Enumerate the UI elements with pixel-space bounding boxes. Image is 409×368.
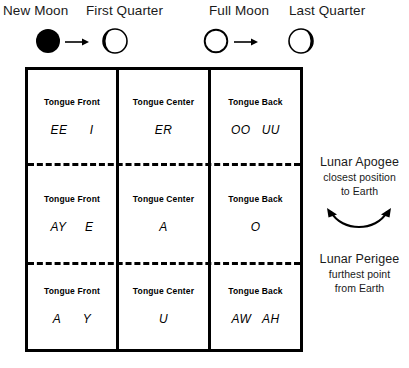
table-cell-tongue-center: Tongue Center A: [116, 164, 208, 263]
cell-title: Tongue Front: [44, 97, 100, 107]
cell-title: Tongue Back: [228, 194, 282, 204]
cell-vowels: A: [159, 220, 167, 234]
table-row: Tongue Front EE I Tongue Center ER Tongu…: [28, 70, 300, 164]
tongue-position-table: Tongue Front EE I Tongue Center ER Tongu…: [25, 67, 303, 352]
table-cell-tongue-back: Tongue Back O: [208, 164, 300, 263]
phase-label-full-moon: Full Moon: [209, 3, 269, 19]
table-cell-tongue-center: Tongue Center ER: [116, 70, 208, 164]
table-cell-tongue-front: Tongue Front A Y: [28, 263, 116, 349]
cell-title: Tongue Front: [44, 194, 100, 204]
table-cell-tongue-back: Tongue Back AW AH: [208, 263, 300, 349]
cell-title: Tongue Center: [133, 286, 194, 296]
annotation-subtitle-line1: furthest point: [310, 268, 409, 281]
right-arrow-icon: [64, 32, 90, 52]
cell-title: Tongue Back: [228, 97, 282, 107]
table-cell-tongue-back: Tongue Back OO UU: [208, 70, 300, 164]
table-grid: Tongue Front EE I Tongue Center ER Tongu…: [28, 70, 300, 349]
cell-vowels: O: [251, 220, 261, 234]
cell-title: Tongue Back: [228, 286, 282, 296]
moon-phase-icon-row: [0, 27, 409, 59]
cell-vowels: AW AH: [231, 312, 279, 326]
double-headed-curved-arrow-icon: [318, 206, 400, 240]
annotation-lunar-apogee: Lunar Apogee closest position to Earth: [310, 155, 409, 198]
annotation-subtitle-line2: from Earth: [310, 282, 409, 295]
annotation-subtitle-line1: closest position: [310, 171, 409, 184]
full-moon-icon: [203, 28, 229, 54]
cell-vowels: OO UU: [231, 123, 280, 137]
annotation-title: Lunar Perigee: [310, 252, 409, 267]
last-quarter-moon-icon: [288, 28, 314, 54]
cell-title: Tongue Center: [133, 97, 194, 107]
phase-label-first-quarter: First Quarter: [86, 3, 163, 19]
cell-title: Tongue Center: [133, 194, 194, 204]
phase-label-new-moon: New Moon: [3, 3, 68, 19]
annotation-title: Lunar Apogee: [310, 155, 409, 170]
new-moon-icon: [35, 28, 61, 54]
annotation-subtitle-line2: to Earth: [310, 185, 409, 198]
cell-vowels: A Y: [53, 312, 92, 326]
row-divider-dashed: [28, 262, 300, 265]
moon-phase-label-row: New Moon First Quarter Full Moon Last Qu…: [0, 3, 409, 23]
phase-label-last-quarter: Last Quarter: [289, 3, 365, 19]
table-cell-tongue-front: Tongue Front EE I: [28, 70, 116, 164]
cell-vowels: AY E: [51, 220, 94, 234]
table-cell-tongue-front: Tongue Front AY E: [28, 164, 116, 263]
cell-vowels: EE I: [51, 123, 94, 137]
row-divider-dashed: [28, 163, 300, 166]
cell-title: Tongue Front: [44, 286, 100, 296]
cell-vowels: ER: [155, 123, 172, 137]
table-row: Tongue Front A Y Tongue Center U Tongue …: [28, 263, 300, 349]
right-arrow-icon: [233, 32, 259, 52]
annotation-lunar-perigee: Lunar Perigee furthest point from Earth: [310, 252, 409, 295]
first-quarter-moon-icon: [102, 28, 128, 54]
table-row: Tongue Front AY E Tongue Center A Tongue…: [28, 164, 300, 263]
cell-vowels: U: [159, 312, 168, 326]
table-cell-tongue-center: Tongue Center U: [116, 263, 208, 349]
